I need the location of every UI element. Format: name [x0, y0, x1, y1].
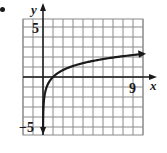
curve — [43, 54, 140, 127]
x-axis-label: x — [149, 78, 157, 93]
tick-label-x-9: 9 — [129, 81, 136, 96]
tick-label-y-5: 5 — [32, 21, 39, 36]
arrowheads — [40, 3, 157, 135]
y-axis-label: y — [29, 2, 37, 17]
tick-label-y-neg5: −5 — [19, 120, 34, 135]
graph: y x 5 9 −5 — [0, 0, 167, 153]
